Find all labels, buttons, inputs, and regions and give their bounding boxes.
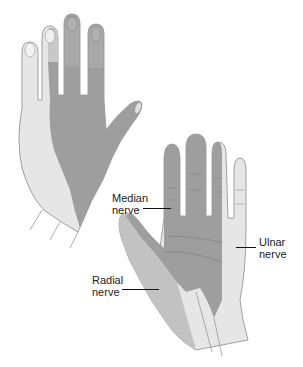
radial-nerve-label: Radial nerve <box>92 274 123 298</box>
median-label-line1: Median <box>112 192 148 204</box>
median-label-line2: nerve <box>112 204 148 216</box>
median-leader-line <box>143 208 171 209</box>
ulnar-label-line2: nerve <box>259 248 287 260</box>
ulnar-leader-line <box>236 247 256 248</box>
ulnar-label-line1: Ulnar <box>259 236 287 248</box>
radial-label-line1: Radial <box>92 274 123 286</box>
ulnar-nerve-label: Ulnar nerve <box>259 236 287 260</box>
nerve-distribution-diagram <box>0 0 303 367</box>
radial-label-line2: nerve <box>92 286 123 298</box>
radial-leader-line <box>122 289 159 290</box>
palmar-hand <box>119 134 248 356</box>
median-nerve-label: Median nerve <box>112 192 148 216</box>
